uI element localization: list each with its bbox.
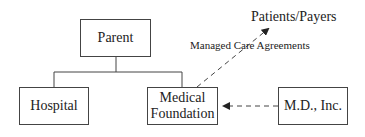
node-md-inc: M.D., Inc.: [278, 87, 348, 125]
node-hospital: Hospital: [19, 87, 89, 125]
node-hospital-label: Hospital: [30, 98, 77, 114]
managed-care-arrow: [197, 29, 268, 87]
patients-payers-label: Patients/Payers: [251, 9, 337, 25]
managed-care-agreements-label: Managed Care Agreements: [190, 39, 310, 51]
node-parent: Parent: [80, 19, 151, 57]
node-medical-foundation: Medical Foundation: [147, 87, 218, 125]
node-medical-foundation-line2: Foundation: [151, 106, 215, 122]
node-parent-label: Parent: [98, 30, 134, 46]
node-medical-foundation-line1: Medical: [160, 90, 206, 106]
node-md-inc-label: M.D., Inc.: [284, 98, 342, 114]
